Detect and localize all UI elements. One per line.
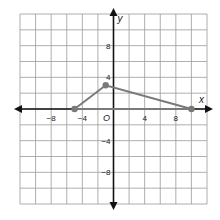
arrow-left-icon xyxy=(14,105,22,113)
x-axis-label: x xyxy=(198,94,205,105)
tick-labels: −8−44884−4−8Oxy xyxy=(47,13,205,177)
arrow-right-icon xyxy=(205,105,213,113)
triangle-outline xyxy=(75,85,192,109)
y-tick-label: 8 xyxy=(106,42,111,51)
x-tick-label: 8 xyxy=(174,114,179,123)
y-tick-label: −8 xyxy=(101,168,111,177)
arrow-down-icon xyxy=(110,202,118,210)
x-tick-label: −4 xyxy=(78,114,88,123)
y-tick-label: 4 xyxy=(106,73,111,82)
origin-label: O xyxy=(103,113,110,123)
x-tick-label: −8 xyxy=(47,114,57,123)
coordinate-plane: −8−44884−4−8Oxy xyxy=(0,0,220,220)
x-tick-label: 4 xyxy=(142,114,147,123)
vertex-point xyxy=(188,106,194,112)
vertex-point xyxy=(71,106,77,112)
y-tick-label: −4 xyxy=(101,137,111,146)
vertex-point xyxy=(103,82,109,88)
arrow-up-icon xyxy=(110,8,118,16)
y-axis-label: y xyxy=(117,13,124,24)
